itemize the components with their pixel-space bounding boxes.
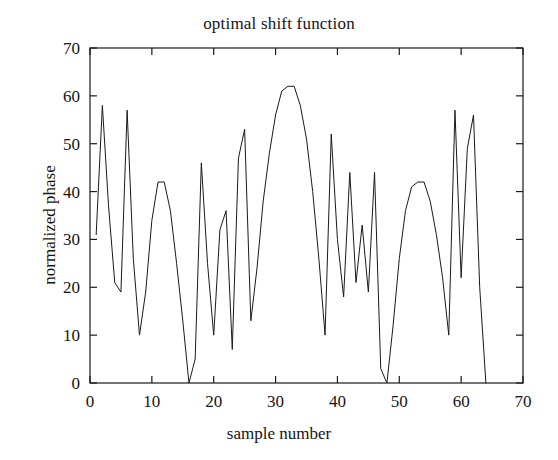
data-series-line [96, 86, 486, 383]
y-tick-label: 60 [63, 87, 80, 106]
y-tick-label: 50 [63, 135, 80, 154]
chart-figure: optimal shift function normalized phase … [0, 0, 558, 460]
y-tick-label: 30 [63, 230, 80, 249]
plot-area: 010203040506070 010203040506070 [0, 0, 558, 460]
x-tick-label: 70 [515, 392, 532, 411]
x-tick-label: 0 [86, 392, 95, 411]
plot-frame [90, 48, 523, 383]
x-tick-label: 10 [143, 392, 160, 411]
y-tick-label: 70 [63, 39, 80, 58]
x-tick-label: 20 [205, 392, 222, 411]
y-tick-label: 40 [63, 183, 80, 202]
y-tick-label: 20 [63, 278, 80, 297]
x-tick-label: 50 [391, 392, 408, 411]
x-tick-label: 30 [267, 392, 284, 411]
y-tick-label: 10 [63, 326, 80, 345]
x-axis-ticks: 010203040506070 [86, 48, 532, 411]
x-tick-label: 40 [329, 392, 346, 411]
x-tick-label: 60 [453, 392, 470, 411]
y-tick-label: 0 [72, 374, 81, 393]
